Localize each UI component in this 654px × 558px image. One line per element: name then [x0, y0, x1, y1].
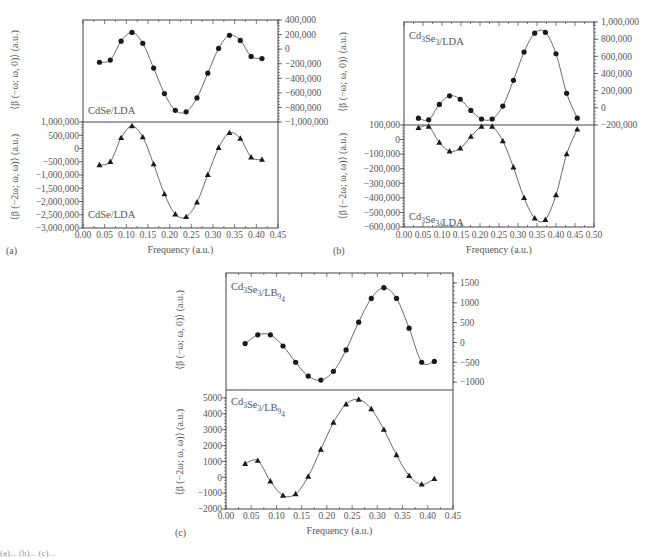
figure-caption: (a)... (b)... (c)...	[0, 548, 654, 558]
y-tick-label: 1,000,000	[41, 117, 79, 127]
data-point-circle	[331, 369, 336, 374]
y-tick-label: −2,500,000	[36, 210, 80, 220]
data-point-triangle	[161, 191, 167, 196]
x-axis-title: Frequency (a.u.)	[148, 244, 214, 256]
x-tick-label: 0.45	[445, 511, 462, 521]
series-c-top: 150010005000−500−1000Cd3Se3/LB94	[226, 273, 485, 387]
data-point-circle	[216, 46, 221, 51]
data-point-circle	[280, 343, 285, 348]
y-tick-label: 800,000	[601, 34, 632, 44]
y-tick-label: −1000	[198, 488, 223, 498]
y-tick-label: −800,000	[285, 103, 321, 113]
series-a-bottom: 1,000,000500,0000−500,000−1,000,000−1,50…	[36, 117, 287, 240]
x-tick-label: 0.00	[218, 511, 235, 521]
data-point-circle	[306, 374, 311, 379]
data-point-circle	[543, 30, 548, 35]
data-point-triangle	[521, 195, 527, 200]
data-point-circle	[255, 332, 260, 337]
y-tick-label: 600,000	[601, 52, 632, 62]
y-tick-label: −200,000	[364, 164, 400, 174]
data-point-circle	[194, 95, 199, 100]
y-tick-label: −1000	[460, 377, 485, 387]
data-point-circle	[227, 33, 232, 38]
data-point-circle	[479, 116, 484, 121]
x-axis-title: Frequency (a.u.)	[466, 244, 532, 256]
data-point-triangle	[107, 159, 113, 164]
y-tick-label: 2000	[203, 441, 222, 451]
x-tick-label: 0.45	[567, 230, 584, 240]
data-point-triangle	[205, 172, 211, 177]
data-point-circle	[108, 57, 113, 62]
data-point-circle	[140, 41, 145, 46]
data-point-triangle	[216, 145, 222, 150]
data-point-circle	[356, 320, 361, 325]
data-point-circle	[259, 56, 264, 61]
fit-curve	[245, 288, 434, 381]
series-b-top: 1,000,000800,000600,000400,000200,0000−2…	[404, 17, 639, 130]
y-tick-label: 0	[395, 135, 400, 145]
series-c-bottom: 500040003000200010000−1000−20000.000.050…	[198, 393, 462, 521]
data-point-circle	[521, 49, 526, 54]
data-point-circle	[184, 109, 189, 114]
data-point-triangle	[394, 452, 400, 457]
y-tick-label: −200,000	[601, 120, 637, 130]
data-point-circle	[369, 296, 374, 301]
data-point-triangle	[151, 161, 157, 166]
x-tick-label: 0.45	[270, 230, 287, 240]
y-tick-label: −500	[460, 358, 480, 368]
y-tick-label: 3000	[203, 425, 222, 435]
x-tick-label: 0.10	[268, 511, 285, 521]
data-point-circle	[381, 285, 386, 290]
data-point-circle	[468, 108, 473, 113]
x-tick-label: 0.20	[161, 230, 178, 240]
x-tick-label: 0.40	[419, 511, 436, 521]
data-point-circle	[249, 54, 254, 59]
y-tick-label: 0	[217, 473, 222, 483]
fit-curve	[99, 32, 262, 113]
data-point-circle	[511, 78, 516, 83]
y-tick-label: −200,000	[285, 59, 321, 69]
data-point-circle	[162, 91, 167, 96]
x-tick-label: 0.40	[548, 230, 565, 240]
panel-tag: (c)	[175, 527, 186, 539]
data-point-circle	[318, 377, 323, 382]
data-point-circle	[343, 347, 348, 352]
x-tick-label: 0.30	[510, 230, 527, 240]
x-tick-label: 0.25	[344, 511, 361, 521]
data-point-circle	[458, 97, 463, 102]
y-axis-title-bottom: ⟨β (−2ω; ω, ω)⟩ (a.u.)	[337, 133, 349, 219]
plot-frame	[226, 273, 453, 509]
data-point-triangle	[574, 126, 580, 131]
x-tick-label: 0.15	[293, 511, 310, 521]
x-tick-label: 0.10	[434, 230, 451, 240]
y-tick-label: −600,000	[285, 88, 321, 98]
x-tick-label: 0.20	[472, 230, 489, 240]
fit-curve	[418, 125, 577, 222]
y-axis-title-top: ⟨β (−ω; ω, 0)⟩ (a.u.)	[337, 32, 349, 112]
series-b-bottom: 100,0000−100,000−200,000−300,000−400,000…	[364, 120, 603, 240]
data-point-circle	[407, 326, 412, 331]
figure-three-panel-hyperpolarizability: 400,000200,0000−200,000−400,000−600,000−…	[0, 0, 654, 558]
plot-frame	[83, 20, 278, 228]
y-tick-label: 0	[601, 103, 606, 113]
y-tick-label: 400,000	[285, 15, 316, 25]
y-tick-label: 1000	[460, 298, 479, 308]
data-point-triangle	[500, 138, 506, 143]
data-point-triangle	[510, 164, 516, 169]
data-point-circle	[532, 31, 537, 36]
x-tick-label: 0.25	[491, 230, 508, 240]
series-label: Cd3Se3/LB94	[231, 396, 285, 419]
y-tick-label: −300,000	[364, 179, 400, 189]
series-a-top: 400,000200,0000−200,000−400,000−600,000−…	[83, 15, 329, 127]
data-point-triangle	[553, 192, 559, 197]
y-tick-label: −1,500,000	[36, 184, 80, 194]
series-label: Cd3Se3/LB94	[231, 281, 285, 304]
data-point-circle	[416, 116, 421, 121]
data-point-circle	[426, 117, 431, 122]
data-point-circle	[205, 71, 210, 76]
y-tick-label: −500,000	[43, 157, 79, 167]
x-tick-label: 0.30	[205, 230, 222, 240]
series-label: Cd3Se3/LDA	[409, 211, 464, 228]
panel-c: 150010005000−500−1000Cd3Se3/LB9450004000…	[174, 273, 485, 539]
data-point-triangle	[564, 151, 570, 156]
